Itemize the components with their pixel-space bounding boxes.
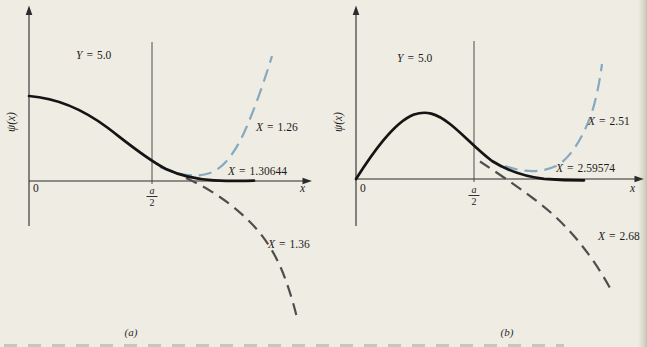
b-origin-label: 0 bbox=[360, 182, 366, 194]
b-x-axis-arrow-icon bbox=[635, 176, 645, 183]
a-y-axis-title: ψ(x) bbox=[5, 112, 18, 132]
a-energy-label: Y=5.0 bbox=[76, 49, 112, 61]
b-x-axis-title: x bbox=[629, 182, 636, 194]
svg-text:a: a bbox=[150, 185, 155, 196]
b-y-axis-arrow-icon bbox=[353, 6, 360, 16]
b-label-eigenvalue: X=2.59574 bbox=[555, 162, 615, 174]
a-half-tick-fraction: a 2 bbox=[147, 185, 158, 208]
b-label-overshoot: X=2.68 bbox=[597, 230, 640, 242]
figure-canvas: Y=5.0 X=1.26 X=1.30644 X=1.36 ψ(x) 0 x a… bbox=[0, 0, 647, 347]
b-y-axis-title: ψ(x) bbox=[332, 112, 345, 132]
svg-text:a: a bbox=[472, 184, 477, 195]
a-panel-caption: (a) bbox=[125, 326, 138, 339]
a-curve-undershoot-dashed bbox=[160, 56, 272, 175]
a-label-undershoot: X=1.26 bbox=[255, 121, 298, 133]
a-label-overshoot: X=1.36 bbox=[267, 238, 310, 250]
a-origin-label: 0 bbox=[33, 182, 39, 194]
figure-page: Y=5.0 X=1.26 X=1.30644 X=1.36 ψ(x) 0 x a… bbox=[0, 0, 647, 347]
b-energy-label: Y=5.0 bbox=[397, 52, 433, 64]
svg-text:2: 2 bbox=[150, 197, 155, 208]
b-half-tick-fraction: a 2 bbox=[469, 184, 480, 207]
svg-text:2: 2 bbox=[472, 196, 477, 207]
b-curve-eigenfunction-solid bbox=[356, 113, 584, 181]
a-label-eigenvalue: X=1.30644 bbox=[227, 165, 287, 177]
b-curve-overshoot-dashed bbox=[480, 162, 612, 293]
a-y-axis-arrow-icon bbox=[26, 6, 33, 16]
b-label-undershoot: X=2.51 bbox=[587, 115, 630, 127]
panel-a: Y=5.0 X=1.26 X=1.30644 X=1.36 ψ(x) 0 x a… bbox=[5, 6, 312, 340]
panel-b: Y=5.0 X=2.51 X=2.59574 X=2.68 ψ(x) 0 x a… bbox=[332, 6, 644, 340]
b-panel-caption: (b) bbox=[501, 326, 514, 339]
a-x-axis-title: x bbox=[299, 182, 306, 194]
